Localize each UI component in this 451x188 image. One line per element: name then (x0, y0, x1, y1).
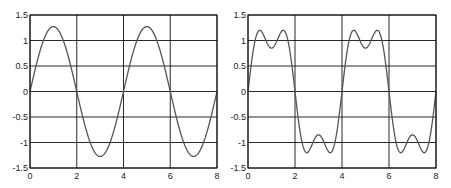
y-tick-label: -0.5 (12, 112, 28, 122)
plot-2: 024681.510.50-0.5-1-1.5 (230, 10, 438, 181)
y-tick-label: 1 (241, 36, 246, 46)
x-tick-label: 6 (168, 171, 173, 181)
x-tick-label: 8 (433, 171, 438, 181)
y-tick-label: 0.5 (15, 61, 28, 71)
y-tick-label: 1.5 (233, 10, 246, 20)
y-tick-label: 0 (241, 87, 246, 97)
y-tick-label: -1.5 (12, 163, 28, 173)
x-tick-label: 4 (339, 171, 344, 181)
y-tick-label: 0.5 (233, 61, 246, 71)
x-tick-label: 2 (292, 171, 297, 181)
x-tick-label: 6 (386, 171, 391, 181)
y-tick-label: -1 (238, 138, 246, 148)
y-tick-label: 0 (23, 87, 28, 97)
x-tick-label: 0 (245, 171, 250, 181)
y-tick-label: 1 (23, 36, 28, 46)
x-tick-label: 4 (121, 171, 126, 181)
y-tick-label: -1.5 (230, 163, 246, 173)
plot-1: 024681.510.50-0.5-1-1.5 (12, 10, 219, 181)
chart-canvas: 024681.510.50-0.5-1-1.5024681.510.50-0.5… (0, 0, 451, 188)
x-tick-label: 2 (74, 171, 79, 181)
x-tick-label: 8 (214, 171, 219, 181)
y-tick-label: -1 (20, 138, 28, 148)
y-tick-label: 1.5 (15, 10, 28, 20)
y-tick-label: -0.5 (230, 112, 246, 122)
x-tick-label: 0 (27, 171, 32, 181)
